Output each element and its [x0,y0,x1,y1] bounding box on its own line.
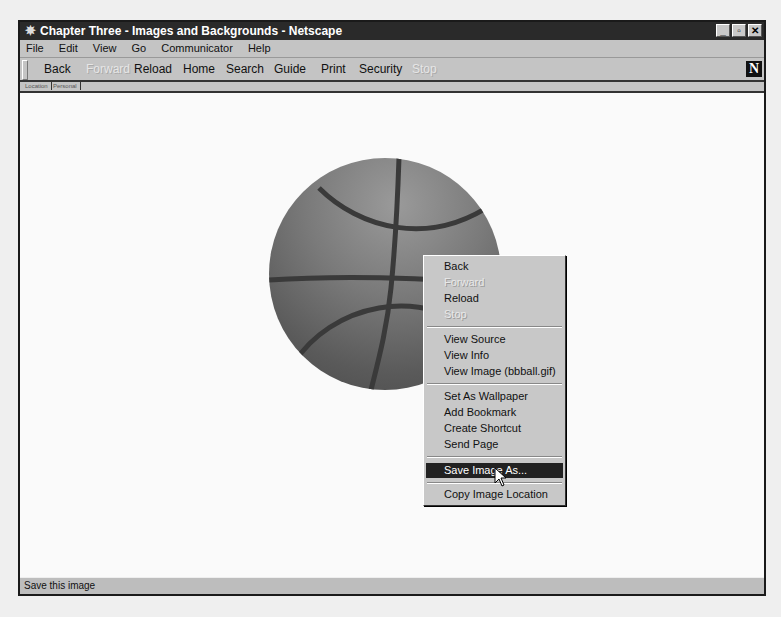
browser-window: ✵ Chapter Three - Images and Backgrounds… [18,20,766,596]
menu-file[interactable]: File [26,42,44,54]
ctx-create-shortcut[interactable]: Create Shortcut [426,421,563,436]
page-content [20,93,764,578]
netscape-app-icon[interactable]: ✵ [23,24,37,38]
window-title: Chapter Three - Images and Backgrounds -… [40,22,342,40]
navigation-toolbar: Back Forward Reload Home Search Guide Pr… [20,58,764,82]
ctx-forward[interactable]: Forward [426,275,563,290]
close-button[interactable]: ✕ [748,24,762,37]
menu-view[interactable]: View [93,42,117,54]
menu-help[interactable]: Help [248,42,271,54]
minimize-button[interactable]: _ [716,24,730,37]
security-button[interactable]: Security [359,58,402,80]
ctx-reload[interactable]: Reload [426,291,563,306]
back-button[interactable]: Back [44,58,71,80]
forward-button[interactable]: Forward [86,58,130,80]
ctx-copy-image-location[interactable]: Copy Image Location [426,487,563,502]
menu-communicator[interactable]: Communicator [161,42,233,54]
ctx-send-page[interactable]: Send Page [426,437,563,452]
home-button[interactable]: Home [183,58,215,80]
ctx-view-info[interactable]: View Info [426,348,563,363]
ctx-add-bookmark[interactable]: Add Bookmark [426,405,563,420]
ctx-set-wallpaper[interactable]: Set As Wallpaper [426,389,563,404]
ctx-back[interactable]: Back [426,259,563,274]
menu-edit[interactable]: Edit [59,42,78,54]
ctx-stop[interactable]: Stop [426,307,563,322]
window-controls: _ ▫ ✕ [716,24,762,37]
menu-bar: File Edit View Go Communicator Help [20,40,764,58]
reload-button[interactable]: Reload [134,58,172,80]
guide-button[interactable]: Guide [274,58,306,80]
personal-toolbar-tabs: Location Personal [20,82,764,93]
print-button[interactable]: Print [321,58,346,80]
ctx-view-source[interactable]: View Source [426,332,563,347]
netscape-logo[interactable]: N [746,61,762,77]
mouse-pointer-icon [494,467,508,487]
ctx-separator [427,326,562,328]
title-bar[interactable]: ✵ Chapter Three - Images and Backgrounds… [20,22,764,40]
menu-go[interactable]: Go [132,42,147,54]
personal-tab[interactable]: Personal [50,82,81,90]
ctx-separator [427,383,562,385]
stop-button[interactable]: Stop [412,58,437,80]
ctx-separator [427,456,562,458]
restore-button[interactable]: ▫ [732,24,746,37]
ctx-view-image[interactable]: View Image (bbball.gif) [426,364,563,379]
search-button[interactable]: Search [226,58,264,80]
location-tab[interactable]: Location [22,82,52,90]
status-bar: Save this image [20,577,764,594]
toolbar-grip-handle[interactable] [22,60,28,80]
